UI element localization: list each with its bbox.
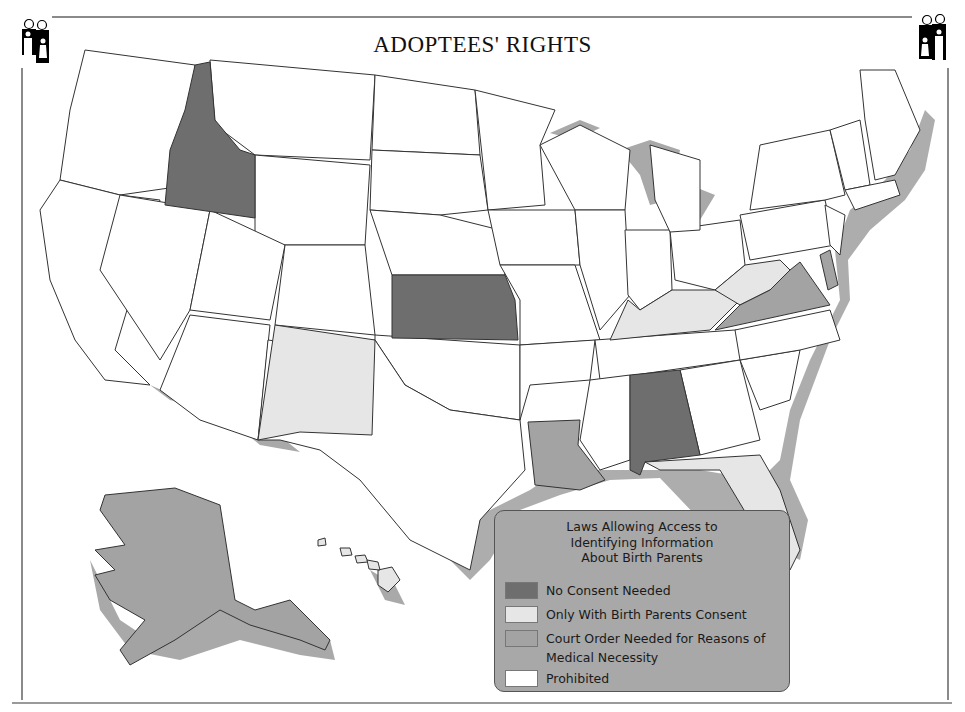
us-map: [0, 0, 965, 712]
swatch-light: [505, 606, 538, 623]
legend-item-court-order: Court Order Needed for Reasons of Medica…: [505, 629, 786, 667]
legend-item-prohibited: Prohibited: [505, 669, 786, 688]
legend-label: Prohibited: [546, 669, 786, 688]
legend-title: Laws Allowing Access to Identifying Info…: [495, 519, 789, 566]
legend-label: Only With Birth Parents Consent: [546, 605, 786, 624]
swatch-medium: [505, 630, 538, 647]
legend-item-birth-parents-consent: Only With Birth Parents Consent: [505, 605, 786, 624]
swatch-dark: [505, 582, 538, 599]
legend-box: Laws Allowing Access to Identifying Info…: [494, 510, 790, 692]
state-kansas: [392, 275, 518, 340]
state-new-mexico: [258, 325, 375, 440]
state-delaware: [820, 250, 838, 290]
legend-title-line: About Birth Parents: [495, 550, 789, 566]
legend-label: Court Order Needed for Reasons of Medica…: [546, 629, 786, 667]
legend-item-no-consent: No Consent Needed: [505, 581, 786, 600]
legend-title-line: Identifying Information: [495, 535, 789, 551]
legend-title-line: Laws Allowing Access to: [495, 519, 789, 535]
legend-label: No Consent Needed: [546, 581, 786, 600]
swatch-white: [505, 670, 538, 687]
